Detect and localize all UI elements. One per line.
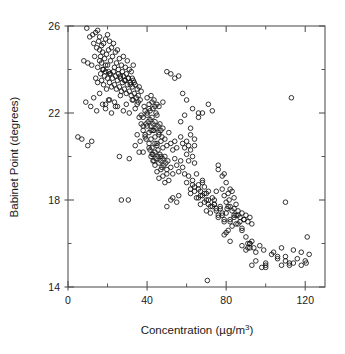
data-point	[291, 248, 296, 253]
data-point	[97, 35, 102, 40]
data-point	[216, 163, 221, 168]
data-point	[97, 91, 102, 96]
data-point	[105, 32, 110, 37]
data-point	[186, 159, 191, 164]
data-point	[104, 87, 109, 92]
data-point	[92, 54, 97, 59]
data-point	[125, 59, 130, 64]
data-point	[126, 198, 131, 203]
data-point	[194, 172, 199, 177]
plot-canvas: Babinet Point (degrees) Concentration (µ…	[0, 0, 345, 354]
data-point	[135, 132, 140, 137]
data-point	[196, 115, 201, 120]
data-point	[174, 146, 179, 151]
data-point	[91, 95, 96, 100]
data-point	[108, 59, 113, 64]
data-point	[172, 156, 177, 161]
data-point	[109, 111, 114, 116]
data-point	[192, 143, 197, 148]
data-point	[174, 163, 179, 168]
y-tick-label: 22	[48, 107, 60, 119]
plot-frame	[68, 26, 325, 287]
data-point	[182, 113, 187, 118]
scatter-plot-figure: Babinet Point (degrees) Concentration (µ…	[0, 0, 345, 354]
data-point	[169, 72, 174, 77]
data-point	[139, 89, 144, 94]
data-point	[240, 243, 245, 248]
data-point	[167, 130, 172, 135]
data-point	[124, 102, 129, 107]
data-point	[190, 106, 195, 111]
data-point	[174, 200, 179, 205]
data-point	[142, 104, 147, 109]
y-tick-label: 14	[48, 281, 60, 293]
data-point	[170, 172, 175, 177]
x-tick-label: 0	[65, 294, 71, 306]
data-point	[84, 26, 89, 31]
data-point	[184, 180, 189, 185]
data-point	[85, 143, 90, 148]
data-point	[176, 169, 181, 174]
data-point	[111, 41, 116, 46]
data-point	[141, 128, 146, 133]
data-point	[184, 98, 189, 103]
data-point	[254, 250, 259, 255]
data-point	[138, 139, 143, 144]
data-point	[165, 172, 170, 177]
data-point	[102, 56, 107, 61]
x-axis-label: Concentration (µg/m3)	[141, 323, 254, 336]
data-point	[169, 165, 174, 170]
data-point	[261, 248, 266, 253]
data-point	[112, 100, 117, 105]
data-point	[161, 100, 166, 105]
data-point	[114, 61, 119, 66]
data-point	[94, 109, 99, 114]
data-point	[224, 180, 229, 185]
x-tick-label: 80	[220, 294, 232, 306]
data-point	[248, 215, 253, 220]
data-point	[91, 41, 96, 46]
data-point	[244, 235, 249, 240]
x-axis-label-base: Concentration (µg/m	[141, 324, 245, 336]
data-point	[232, 196, 237, 201]
data-point	[93, 76, 98, 81]
data-point	[131, 63, 136, 68]
data-point	[206, 102, 211, 107]
data-point	[208, 211, 213, 216]
data-point	[289, 95, 294, 100]
data-point	[107, 80, 112, 85]
data-point	[178, 135, 183, 140]
data-point	[96, 39, 101, 44]
data-point	[178, 159, 183, 164]
x-tick-label: 40	[141, 294, 153, 306]
data-point	[279, 246, 284, 251]
data-point	[254, 259, 259, 264]
data-point	[119, 198, 124, 203]
data-point	[117, 154, 122, 159]
data-point	[295, 256, 300, 261]
data-point	[149, 93, 154, 98]
data-point	[80, 137, 85, 142]
data-point	[153, 163, 158, 168]
data-point	[220, 187, 225, 192]
data-point	[172, 139, 177, 144]
data-point	[257, 243, 262, 248]
data-point	[186, 143, 191, 148]
data-point	[202, 185, 207, 190]
data-point	[250, 263, 255, 268]
data-point	[101, 82, 106, 87]
data-point	[110, 54, 115, 59]
data-point	[192, 161, 197, 166]
data-point	[279, 263, 284, 268]
data-point	[83, 100, 88, 105]
data-point	[89, 63, 94, 68]
data-point	[299, 263, 304, 268]
data-point	[228, 239, 233, 244]
data-point	[121, 109, 126, 114]
data-point	[283, 254, 288, 259]
data-point	[190, 178, 195, 183]
data-point	[180, 165, 185, 170]
data-point	[184, 152, 189, 157]
data-point	[147, 141, 152, 146]
data-point	[216, 167, 221, 172]
